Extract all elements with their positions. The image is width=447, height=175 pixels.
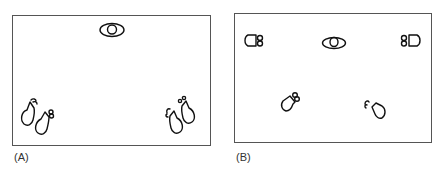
figure-bottom-right-icon: [362, 97, 390, 123]
panel-label-b: (B): [236, 151, 251, 163]
panel-label-a: (A): [14, 151, 29, 163]
footprints-bottom-left-icon: [18, 96, 62, 140]
eye-icon: [98, 22, 126, 38]
figure-bottom-left-icon: [276, 90, 302, 114]
footprints-bottom-right-icon: [162, 95, 206, 139]
figure-right-icon: [399, 33, 423, 49]
figure-left-icon: [243, 33, 267, 49]
eye-icon: [321, 35, 347, 51]
